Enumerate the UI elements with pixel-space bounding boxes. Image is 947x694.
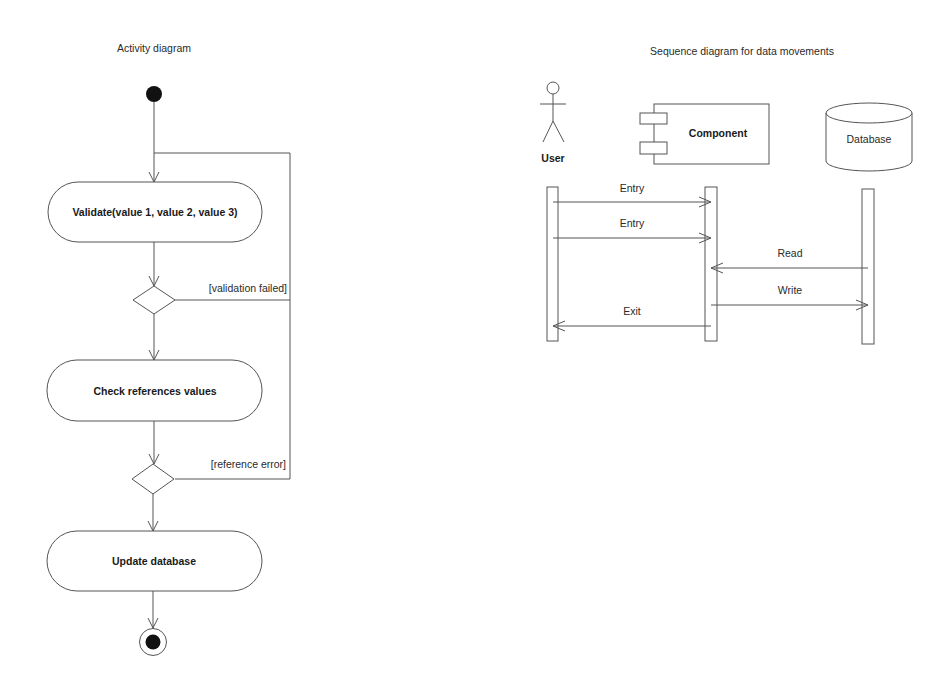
message-entry-2 (553, 233, 711, 243)
final-node-dot (146, 635, 161, 650)
initial-node (146, 86, 162, 102)
action-update-database-label: Update database (112, 555, 196, 567)
sequence-diagram-title: Sequence diagram for data movements (650, 45, 834, 57)
message-read-label: Read (777, 247, 802, 259)
diagram-canvas: Activity diagram Validate(value 1, value… (0, 0, 947, 694)
message-read (711, 263, 868, 273)
activity-diagram: Activity diagram Validate(value 1, value… (47, 42, 290, 656)
action-validate-label: Validate(value 1, value 2, value 3) (72, 206, 237, 218)
decision-node-validation (133, 286, 175, 314)
guard-reference-error: [reference error] (211, 458, 286, 470)
lifeline-activation-database (862, 189, 874, 344)
participant-component-label: Component (689, 127, 748, 139)
message-entry-2-label: Entry (620, 217, 645, 229)
decision-node-reference (132, 464, 174, 494)
message-exit (553, 321, 711, 331)
action-check-references-label: Check references values (93, 385, 216, 397)
message-write-label: Write (778, 284, 802, 296)
sequence-diagram: Sequence diagram for data movements User… (540, 45, 912, 344)
guard-validation-failed: [validation failed] (209, 282, 287, 294)
actor-user-icon (540, 82, 566, 142)
participant-user-label: User (541, 152, 564, 164)
participant-database-label: Database (847, 133, 892, 145)
activity-diagram-title: Activity diagram (117, 42, 191, 54)
message-write (711, 300, 868, 310)
lifeline-activation-component (705, 187, 717, 341)
lifeline-activation-user (547, 187, 558, 341)
message-entry-1 (553, 197, 711, 207)
message-exit-label: Exit (623, 305, 641, 317)
message-entry-1-label: Entry (620, 182, 645, 194)
